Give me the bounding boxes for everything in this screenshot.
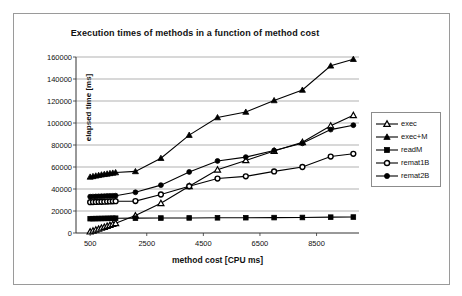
- data-point-marker: [158, 183, 163, 188]
- x-tick-label: 2500: [138, 239, 155, 248]
- y-tick-label: 0: [68, 229, 72, 238]
- data-point-marker: [300, 215, 305, 220]
- data-point-marker: [186, 132, 192, 137]
- series-line: [90, 154, 353, 202]
- data-point-marker: [159, 216, 164, 221]
- data-point-marker: [187, 216, 192, 221]
- data-point-marker: [384, 173, 389, 178]
- data-point-marker: [113, 193, 118, 198]
- data-point-marker: [215, 216, 220, 221]
- circle-filled-icon: [375, 170, 399, 182]
- data-point-marker: [113, 199, 118, 204]
- legend-label: readM: [401, 145, 422, 154]
- chart-legend: execexec+MreadMremat1Bremat2B: [371, 112, 441, 187]
- y-tick-label: 120000: [47, 97, 72, 106]
- legend-item-exec[interactable]: exec: [375, 117, 437, 130]
- data-point-marker: [384, 120, 390, 126]
- y-tick-label: 40000: [51, 185, 72, 194]
- triangle-filled-icon: [375, 131, 399, 143]
- x-tick-label: 500: [84, 239, 97, 248]
- data-point-marker: [113, 220, 119, 225]
- data-point-marker: [243, 174, 248, 179]
- data-point-marker: [187, 184, 192, 189]
- data-point-marker: [351, 151, 356, 156]
- series-readM: [88, 215, 356, 221]
- y-tick-label: 20000: [51, 207, 72, 216]
- data-point-marker: [158, 200, 164, 205]
- data-point-marker: [133, 199, 138, 204]
- data-point-marker: [384, 160, 389, 165]
- legend-item-remat1B[interactable]: remat1B: [375, 156, 437, 169]
- data-point-marker: [328, 215, 333, 220]
- y-tick-label: 80000: [51, 141, 72, 150]
- data-point-marker: [300, 165, 305, 170]
- data-point-marker: [328, 154, 333, 159]
- x-axis-label: method cost [CPU ms]: [76, 255, 359, 265]
- legend-label: remat2B: [401, 171, 429, 180]
- x-tick-label: 8500: [308, 239, 325, 248]
- legend-label: exec+M: [401, 132, 427, 141]
- data-point-marker: [328, 127, 333, 132]
- data-point-marker: [215, 176, 220, 181]
- x-tick-label: 6500: [252, 239, 269, 248]
- data-point-marker: [351, 215, 356, 220]
- legend-item-remat2B[interactable]: remat2B: [375, 169, 437, 182]
- plot-svg: [76, 57, 359, 233]
- data-point-marker: [215, 159, 220, 164]
- square-filled-icon: [375, 144, 399, 156]
- data-point-marker: [350, 112, 356, 117]
- series-line: [90, 59, 353, 177]
- data-point-marker: [385, 147, 390, 152]
- data-point-marker: [187, 170, 192, 175]
- series-exec: [87, 112, 356, 234]
- legend-label: exec: [401, 119, 417, 128]
- data-point-marker: [243, 215, 248, 220]
- triangle-open-icon: [375, 118, 399, 130]
- data-point-marker: [272, 148, 277, 153]
- y-tick-label: 100000: [47, 119, 72, 128]
- plot-area: elapsed time [ms] method cost [CPU ms] 0…: [76, 57, 359, 233]
- legend-item-readM[interactable]: readM: [375, 143, 437, 156]
- data-point-marker: [133, 190, 138, 195]
- chart-title: Execution times of methods in a function…: [14, 28, 376, 38]
- data-point-marker: [113, 216, 118, 221]
- y-tick-label: 140000: [47, 75, 72, 84]
- y-tick-label: 60000: [51, 163, 72, 172]
- data-point-marker: [351, 123, 356, 128]
- legend-item-exec+M[interactable]: exec+M: [375, 130, 437, 143]
- series-line: [90, 115, 353, 231]
- series-remat1B: [88, 151, 356, 204]
- data-point-marker: [300, 141, 305, 146]
- data-point-marker: [158, 192, 163, 197]
- data-point-marker: [272, 215, 277, 220]
- y-tick-label: 160000: [47, 53, 72, 62]
- data-point-marker: [272, 169, 277, 174]
- legend-label: remat1B: [401, 158, 429, 167]
- data-point-marker: [243, 155, 248, 160]
- chart-frame: Execution times of methods in a function…: [13, 13, 450, 285]
- x-tick-label: 4500: [195, 239, 212, 248]
- data-point-marker: [133, 216, 138, 221]
- data-point-marker: [214, 167, 220, 172]
- circle-open-icon: [375, 157, 399, 169]
